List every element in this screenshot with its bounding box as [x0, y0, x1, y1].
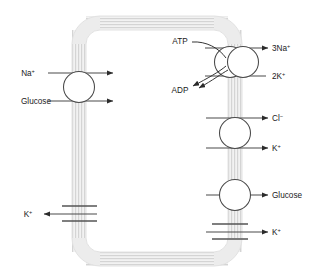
pump-protein-circle-outer[interactable] — [228, 47, 259, 78]
membrane-segment-top — [86, 16, 228, 30]
cell-transport-diagram: Na+ Glucose ATP ADP 3Na+ 2K+ Cl− K+ Gluc… — [0, 0, 314, 279]
membrane-segment-bottom — [86, 252, 228, 266]
potassium-channel-left[interactable] — [44, 206, 97, 221]
label-adp: ADP — [172, 86, 189, 95]
adp-output-arrow-2 — [199, 70, 228, 88]
label-k-bottom-right: K+ — [272, 227, 281, 237]
label-cl: Cl− — [272, 113, 283, 123]
label-atp: ATP — [172, 37, 188, 46]
membrane-inner-edge — [86, 30, 228, 252]
label-k-middle: K+ — [272, 143, 281, 153]
label-na-left: Na+ — [21, 68, 35, 78]
diagram-canvas: Na+ Glucose ATP ADP 3Na+ 2K+ Cl− K+ Gluc… — [0, 0, 314, 279]
label-glucose-right: Glucose — [272, 191, 302, 200]
membrane-segment-left — [72, 30, 86, 252]
label-three-na: 3Na+ — [272, 43, 290, 53]
label-k-bottom-left: K+ — [24, 209, 33, 219]
glucose-protein-circle[interactable] — [220, 180, 251, 211]
cl-k-protein-circle[interactable] — [220, 118, 251, 149]
chloride-potassium-transporter[interactable] — [206, 118, 268, 149]
label-two-k: 2K+ — [272, 71, 285, 81]
na-glucose-symporter[interactable] — [48, 72, 113, 103]
label-glucose-left: Glucose — [21, 97, 51, 106]
symporter-protein-circle[interactable] — [64, 72, 95, 103]
glucose-transporter[interactable] — [206, 180, 268, 211]
